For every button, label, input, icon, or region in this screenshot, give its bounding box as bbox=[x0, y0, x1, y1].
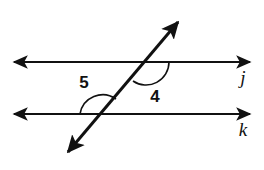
line-k-label: k bbox=[239, 119, 248, 140]
angle-4-label: 4 bbox=[150, 87, 160, 106]
line-k-group: k bbox=[14, 114, 250, 140]
geometry-canvas: j k 5 4 bbox=[0, 0, 264, 170]
angle-5-label: 5 bbox=[79, 73, 88, 92]
angle-4-arc bbox=[133, 62, 169, 85]
line-j-label: j bbox=[237, 67, 245, 88]
geometry-figure: j k 5 4 bbox=[0, 0, 264, 170]
angle-5-arc bbox=[80, 95, 116, 114]
angle-5-group: 5 bbox=[79, 73, 116, 114]
